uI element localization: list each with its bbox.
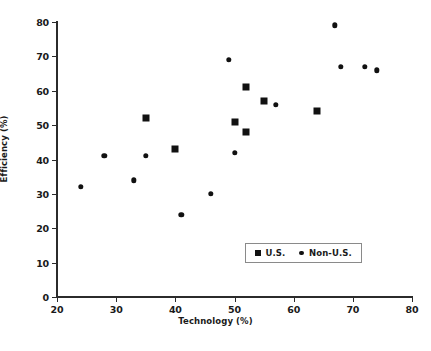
figure-caption bbox=[14, 341, 414, 350]
data-point-circle bbox=[131, 177, 136, 182]
y-tick-label: 80 bbox=[36, 17, 49, 28]
legend-entry-us: U.S. bbox=[255, 248, 285, 258]
legend-label-us: U.S. bbox=[266, 248, 286, 258]
data-point-circle bbox=[374, 67, 379, 72]
x-axis-line bbox=[56, 296, 413, 298]
y-tick-label: 0 bbox=[43, 292, 49, 303]
y-tick-label: 40 bbox=[36, 154, 49, 165]
data-point-square bbox=[172, 146, 179, 153]
data-point-circle bbox=[179, 212, 184, 217]
y-axis-title: Efficiency (%) bbox=[0, 69, 9, 229]
data-point-circle bbox=[332, 23, 337, 28]
square-marker-icon bbox=[255, 250, 261, 256]
data-point-circle bbox=[232, 150, 237, 155]
data-point-circle bbox=[226, 57, 231, 62]
legend-entry-non-us: Non-U.S. bbox=[299, 248, 351, 258]
x-tick-label: 40 bbox=[169, 304, 182, 315]
y-axis-line bbox=[56, 21, 58, 298]
data-point-square bbox=[231, 118, 238, 125]
y-tick-label: 10 bbox=[36, 257, 49, 268]
data-point-square bbox=[142, 115, 149, 122]
x-tick-label: 60 bbox=[287, 304, 300, 315]
y-tick-label: 60 bbox=[36, 85, 49, 96]
data-point-circle bbox=[208, 191, 213, 196]
x-tick-label: 50 bbox=[228, 304, 241, 315]
data-point-circle bbox=[338, 64, 343, 69]
x-tick-label: 20 bbox=[51, 304, 64, 315]
data-point-circle bbox=[273, 102, 278, 107]
y-tick-label: 30 bbox=[36, 188, 49, 199]
x-tick-label: 70 bbox=[346, 304, 359, 315]
chart-legend: U.S. Non-U.S. bbox=[245, 243, 362, 263]
y-tick-label: 50 bbox=[36, 120, 49, 131]
x-axis-title: Technology (%) bbox=[0, 316, 431, 326]
legend-label-non-us: Non-U.S. bbox=[309, 248, 352, 258]
data-point-circle bbox=[102, 153, 107, 158]
data-point-circle bbox=[78, 184, 83, 189]
scatter-chart-figure: 01020304050607080 20304050607080 Efficie… bbox=[0, 0, 431, 351]
data-point-circle bbox=[143, 153, 148, 158]
data-point-square bbox=[314, 108, 321, 115]
circle-marker-icon bbox=[299, 251, 304, 256]
x-tick-label: 80 bbox=[406, 304, 419, 315]
data-point-square bbox=[261, 98, 268, 105]
data-point-square bbox=[243, 84, 250, 91]
y-tick-label: 20 bbox=[36, 223, 49, 234]
data-point-square bbox=[243, 129, 250, 136]
x-tick-label: 30 bbox=[110, 304, 123, 315]
data-point-circle bbox=[362, 64, 367, 69]
y-tick-label: 70 bbox=[36, 51, 49, 62]
